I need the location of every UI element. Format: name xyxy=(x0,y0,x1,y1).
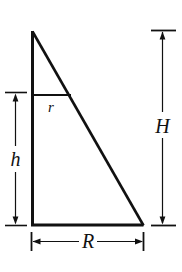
label-R: R xyxy=(81,230,94,252)
label-h: h xyxy=(11,148,21,170)
figure-container: r h xyxy=(0,0,182,272)
label-H: H xyxy=(154,115,171,137)
label-r: r xyxy=(48,99,54,115)
geometry-diagram: r h xyxy=(0,0,182,272)
